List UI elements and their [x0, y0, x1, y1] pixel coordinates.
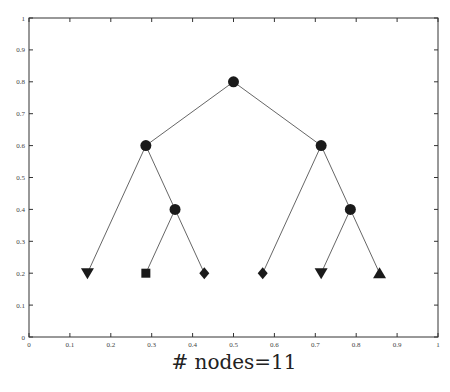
diamond-marker: [199, 267, 209, 279]
tree-edge: [175, 209, 204, 273]
x-tick-label: 0.3: [147, 341, 156, 349]
circle-marker: [170, 204, 181, 215]
tree-edge: [234, 82, 322, 146]
y-tick-label: 0.3: [16, 238, 25, 246]
tree-nodes: [81, 76, 386, 279]
x-tick-label: 0.6: [270, 341, 279, 349]
tree-edges: [87, 82, 379, 273]
tree-edge: [321, 146, 350, 210]
x-tick-label: 0.5: [229, 341, 238, 349]
tree-plot: 00.10.20.30.40.50.60.70.80.9100.10.20.30…: [0, 0, 450, 392]
y-tick-label: 0.7: [16, 110, 25, 118]
y-tick-label: 0.6: [16, 142, 25, 150]
y-tick-label: 0.1: [16, 302, 25, 310]
y-tick-label: 1: [22, 15, 26, 23]
y-tick-label: 0.4: [16, 206, 25, 214]
x-tick-label: 0.2: [106, 341, 115, 349]
y-tick-label: 0.9: [16, 46, 25, 54]
circle-marker: [140, 140, 151, 151]
circle-marker: [345, 204, 356, 215]
triangle-down-marker: [315, 268, 328, 279]
x-tick-label: 1: [436, 341, 440, 349]
x-tick-label: 0.4: [188, 341, 197, 349]
triangle-down-marker: [81, 268, 94, 279]
tree-edge: [87, 146, 145, 274]
y-tick-label: 0.2: [16, 270, 25, 278]
diamond-marker: [258, 267, 268, 279]
circle-marker: [316, 140, 327, 151]
tree-edge: [146, 146, 175, 210]
tree-edge: [321, 209, 350, 273]
y-tick-label: 0: [22, 334, 26, 342]
tree-edge: [350, 209, 379, 273]
x-tick-label: 0.9: [393, 341, 402, 349]
x-tick-label: 0.7: [311, 341, 320, 349]
tree-edge: [146, 209, 175, 273]
tree-edge: [263, 146, 321, 274]
triangle-up-marker: [373, 267, 386, 278]
square-marker: [141, 269, 150, 278]
circle-marker: [228, 76, 239, 87]
y-tick-label: 0.8: [16, 78, 25, 86]
tree-edge: [146, 82, 234, 146]
x-tick-label: 0.1: [66, 341, 75, 349]
x-tick-label: 0: [27, 341, 31, 349]
plot-frame: [29, 18, 438, 337]
x-axis-label: # nodes=11: [0, 350, 450, 374]
x-tick-label: 0.8: [352, 341, 361, 349]
y-tick-label: 0.5: [16, 174, 25, 182]
plot-axes: 00.10.20.30.40.50.60.70.80.9100.10.20.30…: [16, 15, 440, 350]
